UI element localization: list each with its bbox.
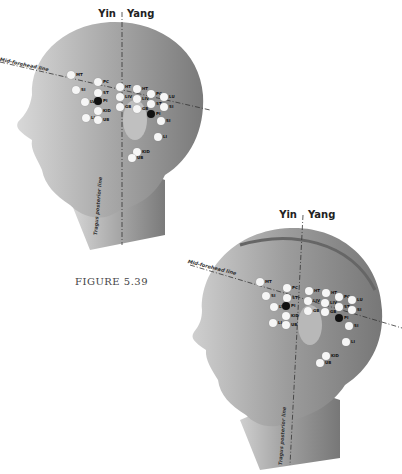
acupoint-marker xyxy=(304,307,312,315)
acupoint-label: SI xyxy=(354,323,358,328)
acupoint-label: SI xyxy=(81,87,85,92)
acupoint-marker xyxy=(321,299,329,307)
acupoint-label: LU xyxy=(169,94,175,99)
acupoint-marker xyxy=(282,312,290,320)
acupoint-marker xyxy=(305,287,313,295)
acupoint-label: LI xyxy=(351,339,355,344)
acupoint-label: GB xyxy=(313,308,319,313)
acupoint-marker xyxy=(147,100,155,108)
acupoint-marker xyxy=(282,302,290,310)
acupoint-label: KID xyxy=(142,149,150,154)
acupoint-marker xyxy=(154,133,162,141)
acupoint-label: PI xyxy=(344,315,348,320)
acupoint-marker xyxy=(348,296,356,304)
acupoint-label: PI xyxy=(291,303,295,308)
acupoint-marker xyxy=(116,93,124,101)
acupoint-marker xyxy=(283,284,291,292)
acupoint-marker xyxy=(94,97,102,105)
acupoint-marker xyxy=(304,297,312,305)
acupoint-marker xyxy=(335,303,343,311)
acupoint-marker xyxy=(335,293,343,301)
acupoint-label: SI xyxy=(166,118,170,123)
head-illustration-bottom: Yin Yang Mid-forehead line Tragus poster… xyxy=(180,200,402,474)
acupoint-label: HT xyxy=(125,84,131,89)
acupoint-marker xyxy=(322,289,330,297)
acupoint-marker xyxy=(282,321,290,329)
acupoint-marker xyxy=(269,319,277,327)
acupoint-marker xyxy=(94,89,102,97)
acupoint-label: ST xyxy=(292,295,298,300)
acupoint-label: LIV xyxy=(125,94,132,99)
acupoint-marker xyxy=(335,314,343,322)
acupoint-label: KID xyxy=(331,353,339,358)
acupoint-label: KID xyxy=(291,313,299,318)
acupoint-label: HT xyxy=(314,288,320,293)
acupoint-marker xyxy=(147,90,155,98)
acupoint-label: SI xyxy=(271,293,275,298)
acupoint-label: PI xyxy=(103,98,107,103)
yang-label: Yang xyxy=(308,209,335,220)
acupoint-marker xyxy=(342,338,350,346)
acupoint-label: KID xyxy=(103,108,111,113)
acupoint-label: MT xyxy=(265,279,272,284)
acupoint-marker xyxy=(270,303,278,311)
acupoint-marker xyxy=(67,71,75,79)
acupoint-marker xyxy=(160,93,168,101)
acupoint-label: LU xyxy=(357,297,363,302)
acupoint-marker xyxy=(116,83,124,91)
acupoint-marker xyxy=(262,292,270,300)
acupoint-marker xyxy=(133,85,141,93)
acupoint-marker xyxy=(94,107,102,115)
acupoint-marker xyxy=(133,95,141,103)
acupoint-label: ST xyxy=(103,90,109,95)
acupoint-label: LIV xyxy=(313,298,320,303)
acupoint-marker xyxy=(72,86,80,94)
acupoint-label: SI xyxy=(357,307,361,312)
head-profile-muscle-drawing xyxy=(180,200,402,474)
acupoint-label: UB xyxy=(103,117,109,122)
acupoint-marker xyxy=(116,103,124,111)
acupoint-marker xyxy=(321,308,329,316)
acupoint-marker xyxy=(82,114,90,122)
acupoint-marker xyxy=(133,105,141,113)
yin-label: Yin xyxy=(279,209,297,220)
acupoint-label: GB xyxy=(125,104,131,109)
acupoint-marker xyxy=(147,110,155,118)
acupoint-marker xyxy=(283,294,291,302)
acupoint-marker xyxy=(316,359,324,367)
acupoint-marker xyxy=(94,116,102,124)
acupoint-marker xyxy=(160,103,168,111)
figure-caption: FIGURE 5.39 xyxy=(75,276,148,287)
acupoint-label: PI xyxy=(156,111,160,116)
acupoint-marker xyxy=(322,352,330,360)
acupoint-label: PC xyxy=(103,79,109,84)
yang-label: Yang xyxy=(127,8,154,19)
acupoint-marker xyxy=(348,306,356,314)
acupoint-label: MT xyxy=(76,72,83,77)
acupoint-label: SI xyxy=(169,104,173,109)
acupoint-marker xyxy=(345,322,353,330)
acupoint-label: LI xyxy=(163,134,167,139)
acupoint-marker xyxy=(157,117,165,125)
acupoint-marker xyxy=(128,154,136,162)
acupoint-marker xyxy=(94,78,102,86)
acupoint-label: UB xyxy=(291,322,297,327)
acupoint-label: UB xyxy=(325,360,331,365)
acupoint-label: UB xyxy=(137,155,143,160)
yin-label: Yin xyxy=(98,8,116,19)
acupoint-label: PC xyxy=(292,285,298,290)
acupoint-marker xyxy=(256,278,264,286)
acupoint-marker xyxy=(81,98,89,106)
